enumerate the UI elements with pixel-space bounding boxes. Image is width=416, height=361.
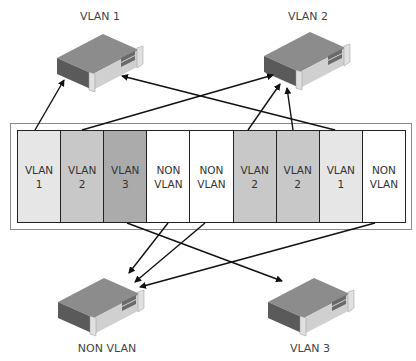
arrow-port7-to-vlan2	[287, 88, 293, 130]
arrow-port6-to-vlan2	[248, 84, 280, 130]
arrow-port3-to-vlan3	[127, 223, 282, 281]
arrow-port8-to-vlan1	[122, 76, 335, 130]
arrow-port9-to-nonvlan	[140, 223, 375, 287]
arrow-port1-to-vlan1	[35, 80, 64, 130]
connection-arrows	[0, 0, 416, 361]
arrow-port2-to-vlan2	[82, 75, 273, 130]
